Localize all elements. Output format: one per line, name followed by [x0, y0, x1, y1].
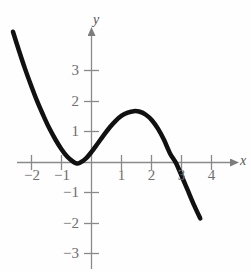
y-tick-label-neg2: −2 [55, 216, 79, 231]
function-curve [13, 32, 200, 219]
graph-figure: −2 −1 1 2 3 4 3 2 1 −1 −2 −3 y x [0, 0, 251, 272]
y-tick-label-1: 1 [62, 124, 79, 139]
x-axis-label: x [240, 154, 246, 168]
x-tick-label-3: 3 [173, 168, 190, 183]
y-tick-label-3: 3 [62, 63, 79, 78]
y-tick-label-neg3: −3 [55, 246, 79, 261]
y-tick-label-2: 2 [62, 94, 79, 109]
coordinate-plane [0, 0, 251, 272]
y-tick-label-neg1: −1 [55, 185, 79, 200]
x-tick-label-4: 4 [203, 168, 220, 183]
x-tick-label-neg1: −1 [52, 168, 72, 183]
y-axis-label: y [93, 13, 99, 27]
x-tick-label-neg2: −2 [22, 168, 42, 183]
x-tick-label-2: 2 [143, 168, 160, 183]
x-tick-label-1: 1 [113, 168, 130, 183]
